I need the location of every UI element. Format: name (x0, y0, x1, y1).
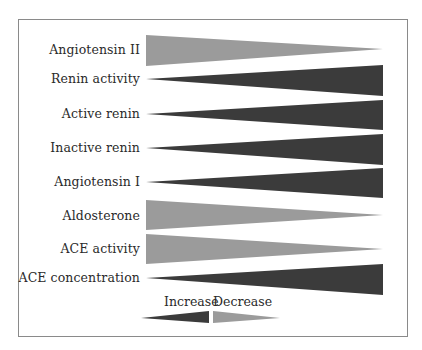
legend-decrease-wedge (213, 311, 280, 323)
wedge-angiotensin-i (146, 168, 383, 198)
label-angiotensin-ii: Angiotensin II (49, 43, 140, 57)
wedge-aldosterone (146, 200, 383, 230)
label-active-renin: Active renin (62, 107, 140, 121)
legend-decrease-label: Decrease (213, 295, 272, 309)
legend-increase-wedge (141, 311, 209, 323)
wedge-inactive-renin (146, 134, 383, 165)
label-ace-activity: ACE activity (60, 242, 140, 256)
wedge-active-renin (146, 100, 383, 130)
wedge-renin-activity (146, 65, 383, 96)
label-inactive-renin: Inactive renin (50, 141, 140, 155)
label-ace-concentration: ACE concentration (19, 271, 140, 285)
legend-increase-label: Increase (164, 295, 219, 309)
label-angiotensin-i: Angiotensin I (54, 175, 140, 189)
label-aldosterone: Aldosterone (63, 209, 140, 223)
label-renin-activity: Renin activity (51, 72, 140, 86)
wedge-ace-activity (146, 234, 383, 264)
wedge-angiotensin-ii (146, 35, 383, 66)
wedge-ace-concentration (146, 264, 383, 295)
